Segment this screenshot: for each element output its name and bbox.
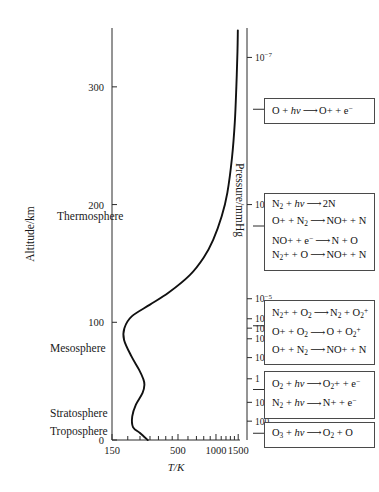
reaction-box-nitrogen-chemistry: N2 + hν ⟶ 2NO+ + N2 ⟶ NO+ + NNO+ + e− ⟶ … <box>264 193 375 271</box>
reaction-equation: N2 + hν ⟶ 2N <box>272 197 367 214</box>
reaction-arrow: ⟶ <box>312 307 330 318</box>
reaction-equation: O + hν ⟶ O+ + e− <box>272 102 367 119</box>
reaction-box-oxygen-photoionization: O + hν ⟶ O+ + e− <box>264 98 375 124</box>
temperature-tick-label: 500 <box>170 445 186 456</box>
reaction-equation: O3 + hν ⟶ O2 + O <box>272 426 367 443</box>
reaction-equation: O+ + N2 ⟶ NO+ + N <box>272 343 367 360</box>
temperature-tick-label: 1000 <box>205 445 226 456</box>
reaction-equation: NO+ + e− ⟶ N + O <box>272 232 367 249</box>
altitude-axis-title: Altitude/km <box>24 206 36 262</box>
reaction-arrow: ⟶ <box>304 398 322 409</box>
reaction-box-charge-transfer-reactions: N2+ + O2 ⟶ N2 + O2+O+ + O2 ⟶ O + O2+O+ +… <box>264 300 375 365</box>
altitude-tick-label: 100 <box>88 317 104 328</box>
reaction-equation: O+ + N2 ⟶ NO+ + N <box>272 214 367 231</box>
temperature-tick-label: 1500 <box>228 445 249 456</box>
reaction-equation: O2 + hν ⟶ O2+ + e− <box>272 375 367 394</box>
leader-lines-group <box>253 109 264 433</box>
layer-label-stratosphere: Stratosphere <box>50 407 107 420</box>
reaction-arrow: ⟶ <box>308 249 326 260</box>
reaction-arrow: ⟶ <box>301 105 319 116</box>
altitude-tick-label: 200 <box>88 200 104 211</box>
reaction-arrow: ⟶ <box>308 344 326 355</box>
reaction-equation: N2+ + O ⟶ NO+ + N <box>272 248 367 265</box>
altitude-tick-label: 300 <box>88 82 104 93</box>
reaction-box-molecular-photoionization: O2 + hν ⟶ O2+ + e−N2 + hν ⟶ N+ + e− <box>264 371 375 419</box>
layer-label-troposphere: Troposphere <box>50 425 108 438</box>
pressure-axis-title: Pressure/mmHg <box>233 163 246 237</box>
temperature-curve <box>123 30 238 440</box>
reaction-equation: N2+ + O2 ⟶ N2 + O2+ <box>272 304 367 323</box>
reaction-equation: N2 + hν ⟶ N+ + e− <box>272 394 367 413</box>
temperature-tick-label: 150 <box>104 445 120 456</box>
reaction-arrow: ⟶ <box>313 235 331 246</box>
layer-label-thermosphere: Thermosphere <box>57 210 123 223</box>
reaction-box-ozone-photolysis: O3 + hν ⟶ O2 + O <box>264 422 375 448</box>
reaction-arrow: ⟶ <box>308 215 326 226</box>
reaction-arrow: ⟶ <box>304 378 322 389</box>
temperature-curve-group <box>123 30 238 440</box>
reaction-arrow: ⟶ <box>304 427 322 438</box>
pressure-tick-label: 1 <box>255 374 260 384</box>
atmosphere-temperature-profile-figure: 0100200300Altitude/km15050010001500T/K10… <box>0 0 379 492</box>
pressure-tick-label: 10−7 <box>255 51 272 63</box>
reaction-arrow: ⟶ <box>304 198 322 209</box>
reaction-arrow: ⟶ <box>308 327 326 338</box>
reaction-equation: O+ + O2 ⟶ O + O2+ <box>272 323 367 342</box>
temperature-axis-title: T/K <box>168 461 185 473</box>
layer-label-mesosphere: Mesosphere <box>50 342 106 355</box>
